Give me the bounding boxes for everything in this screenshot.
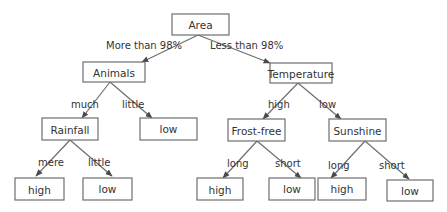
node-rainfall-high-label: high	[28, 184, 51, 196]
edge-label-high: high	[268, 99, 290, 110]
node-area-label: Area	[188, 19, 212, 31]
node-frostfree-low-label: low	[283, 183, 301, 195]
node-animals-low: low	[140, 118, 197, 140]
edge-label-short-1: short	[275, 158, 301, 169]
node-area: Area	[172, 14, 229, 35]
decision-tree-diagram: More than 98% Less than 98% much little …	[0, 0, 447, 212]
node-frostfree-high-label: high	[209, 184, 232, 196]
node-rainfall-label: Rainfall	[50, 124, 89, 136]
node-frostfree-low: low	[269, 178, 315, 200]
edge-label-little: little	[122, 99, 144, 110]
node-sunshine-low-label: low	[401, 185, 419, 197]
node-temperature: Temperature	[267, 63, 335, 83]
edge-label-little-2: little	[88, 157, 110, 168]
node-sunshine-low: low	[387, 180, 433, 201]
edge-label-long-2: long	[328, 160, 350, 171]
node-sunshine-high: high	[318, 178, 366, 200]
node-rainfall-low-label: low	[99, 183, 117, 195]
edge-label-low: low	[319, 99, 336, 110]
node-rainfall: Rainfall	[42, 118, 98, 140]
node-sunshine-label: Sunshine	[333, 125, 381, 137]
edge-label-long-1: long	[227, 158, 249, 169]
edge-labels: More than 98% Less than 98% much little …	[38, 40, 405, 171]
node-temperature-label: Temperature	[267, 68, 335, 80]
edge-label-more-than: More than 98%	[106, 40, 182, 51]
node-rainfall-low: low	[83, 178, 132, 200]
node-sunshine-high-label: high	[331, 183, 354, 195]
node-rainfall-high: high	[15, 178, 64, 200]
node-frostfree-label: Frost-free	[232, 125, 282, 137]
edge-label-mere: mere	[38, 157, 64, 168]
edge-label-much: much	[71, 99, 99, 110]
node-animals-label: Animals	[93, 67, 135, 79]
node-frostfree: Frost-free	[228, 119, 285, 141]
node-animals-low-label: low	[160, 123, 178, 135]
node-sunshine: Sunshine	[329, 119, 386, 141]
edge-label-short-2: short	[379, 160, 405, 171]
node-animals: Animals	[83, 62, 145, 82]
edge-label-less-than: Less than 98%	[210, 40, 283, 51]
node-frostfree-high: high	[197, 178, 243, 200]
